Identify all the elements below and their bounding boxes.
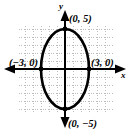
y-axis-name-label: y	[58, 1, 64, 11]
vertex-marker-bottom	[63, 107, 68, 112]
label-bottom-vertex: (0, −5)	[68, 118, 97, 130]
x-axis-name-label: x	[120, 70, 126, 80]
ellipse-graph-figure: (0, 5) (3, 0) (0, −5) (−3, 0) x y	[0, 0, 130, 136]
vertex-marker-left	[39, 67, 44, 72]
label-top-vertex: (0, 5)	[69, 13, 92, 25]
label-left-vertex: (−3, 0)	[9, 57, 38, 69]
coordinate-plane-svg: (0, 5) (3, 0) (0, −5) (−3, 0) x y	[0, 0, 130, 136]
vertex-marker-top	[63, 27, 68, 32]
label-right-vertex: (3, 0)	[91, 57, 114, 69]
